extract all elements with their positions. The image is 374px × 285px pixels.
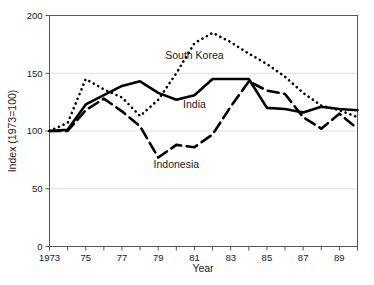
series-line-indonesia bbox=[50, 81, 358, 157]
x-tick-label: 89 bbox=[334, 252, 345, 263]
x-tick-label: 77 bbox=[117, 252, 128, 263]
chart-figure: 050100150200 19737577798183858789 South … bbox=[0, 0, 374, 285]
x-tick-label: 85 bbox=[262, 252, 273, 263]
y-tick-label: 200 bbox=[27, 10, 43, 21]
x-tick-label: 75 bbox=[80, 252, 91, 263]
x-tick-label: 83 bbox=[225, 252, 236, 263]
y-tick-label: 100 bbox=[27, 125, 43, 136]
y-axis-title: Index (1973=100) bbox=[6, 90, 18, 173]
y-tick-label: 50 bbox=[32, 183, 43, 194]
series-line-south-korea bbox=[50, 33, 358, 131]
y-axis-ticks: 050100150200 bbox=[27, 10, 50, 252]
y-tick-label: 150 bbox=[27, 68, 43, 79]
series-label-india: India bbox=[183, 98, 206, 110]
x-axis-title: Year bbox=[192, 262, 214, 274]
x-tick-label: 87 bbox=[298, 252, 309, 263]
series-label-indonesia: Indonesia bbox=[154, 158, 200, 170]
x-tick-label: 79 bbox=[153, 252, 164, 263]
series-label-south-korea: South Korea bbox=[165, 49, 224, 61]
x-tick-label: 1973 bbox=[39, 252, 60, 263]
x-axis-ticks: 19737577798183858789 bbox=[39, 247, 358, 264]
y-tick-label: 0 bbox=[37, 241, 42, 252]
line-chart-canvas: 050100150200 19737577798183858789 South … bbox=[0, 0, 374, 285]
